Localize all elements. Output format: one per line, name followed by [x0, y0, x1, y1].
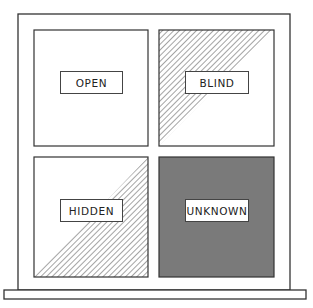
label-unknown: UNKNOWN — [185, 199, 249, 222]
label-hidden: HIDDEN — [60, 199, 123, 222]
johari-window-diagram — [0, 0, 313, 308]
window-sill — [4, 290, 306, 299]
label-blind: BLIND — [185, 71, 249, 94]
label-open: OPEN — [60, 71, 123, 94]
